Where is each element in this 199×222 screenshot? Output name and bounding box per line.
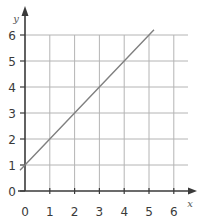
data-series [20,30,154,170]
x-tick-label: 3 [96,205,104,219]
y-tick-label: 5 [8,55,16,69]
y-tick-label: 2 [8,133,16,147]
y-tick-label: 3 [8,107,16,121]
x-tick-label: 1 [46,205,54,219]
y-tick-label: 0 [8,185,16,199]
x-axis-label: x [187,198,193,209]
x-tick-label: 5 [145,205,153,219]
y-tick-label: 6 [8,29,16,43]
x-tick-label: 6 [170,205,178,219]
y-axis-arrow-icon [22,6,29,16]
x-axis-arrow-icon [188,188,197,195]
axes [18,6,197,195]
line-chart: 01234560123456xy [0,0,199,222]
x-tick-label: 4 [120,205,128,219]
y-axis-label: y [12,13,19,24]
x-tick-label: 0 [21,205,29,219]
y-tick-label: 1 [8,159,16,173]
grid-lines [25,35,188,191]
y-tick-label: 4 [8,81,16,95]
tick-labels: 01234560123456xy [8,13,193,219]
x-tick-label: 2 [71,205,79,219]
series-line [20,30,154,170]
